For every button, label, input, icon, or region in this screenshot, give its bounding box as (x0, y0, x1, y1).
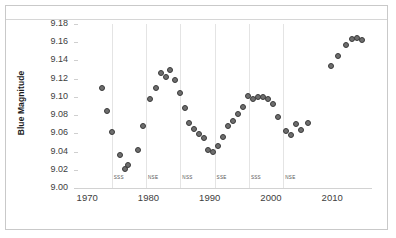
data-point (359, 37, 365, 43)
y-axis-title: Blue Magnitude (16, 33, 26, 173)
y-axis-tick-label: 9.04 (28, 147, 68, 156)
phase-annotation-label: SSS (251, 175, 261, 180)
data-point (240, 104, 246, 110)
phase-annotation-label: SSS (114, 175, 124, 180)
data-point (186, 120, 192, 126)
gridline-vertical (180, 24, 181, 188)
data-point (270, 101, 276, 107)
y-axis-tick-label: 9.02 (28, 165, 68, 174)
data-point (117, 152, 123, 158)
x-axis-tick-label: 2000 (248, 192, 294, 203)
phase-annotation-label: NSS (182, 175, 192, 180)
y-axis-tick-label: 9.08 (28, 110, 68, 119)
data-point (167, 67, 173, 73)
gridline-vertical (215, 24, 216, 188)
x-axis-tick-label: 1980 (125, 192, 171, 203)
phase-annotation-label: NSE (285, 175, 295, 180)
data-point (125, 162, 131, 168)
data-point (225, 123, 231, 129)
x-axis-tick-label: 1990 (187, 192, 233, 203)
data-point (163, 74, 169, 80)
data-point (177, 90, 183, 96)
data-point (147, 96, 153, 102)
data-point (343, 42, 349, 48)
data-point (335, 53, 341, 59)
chart-canvas: Blue Magnitude 9.189.169.149.129.109.089… (6, 6, 387, 229)
y-axis-tick-label: 9.06 (28, 128, 68, 137)
plot-area (78, 24, 372, 188)
y-axis-tick-label: 9.12 (28, 74, 68, 83)
phase-annotation-label: SSE (217, 175, 227, 180)
data-point (172, 77, 178, 83)
data-point (275, 114, 281, 120)
data-point (182, 105, 188, 111)
data-point (99, 85, 105, 91)
y-axis-tick-label: 9.14 (28, 55, 68, 64)
x-axis-line (78, 188, 372, 189)
data-point (191, 126, 197, 132)
gridline-vertical (249, 24, 250, 188)
data-point (298, 127, 304, 133)
data-point (305, 120, 311, 126)
gridline-vertical (112, 24, 113, 188)
phase-annotation-label: NSE (148, 175, 158, 180)
data-point (135, 147, 141, 153)
data-point (153, 85, 159, 91)
y-axis-tick-label: 9.16 (28, 37, 68, 46)
data-point (230, 118, 236, 124)
y-axis-tick-label: 9.10 (28, 92, 68, 101)
data-point (109, 129, 115, 135)
y-axis-tick-label: 9.18 (28, 19, 68, 28)
x-axis-tick-label: 1970 (64, 192, 110, 203)
y-axis-tick-label: 9.00 (28, 183, 68, 192)
chart-frame: Blue Magnitude 9.189.169.149.129.109.089… (5, 5, 388, 230)
x-axis-tick-label: 2010 (309, 192, 355, 203)
data-point (220, 134, 226, 140)
data-point (293, 121, 299, 127)
data-point (215, 143, 221, 149)
data-point (201, 135, 207, 141)
gridline-vertical (146, 24, 147, 188)
data-point (140, 123, 146, 129)
gridline-vertical (283, 24, 284, 188)
data-point (328, 63, 334, 69)
data-point (104, 108, 110, 114)
data-point (288, 132, 294, 138)
data-point (235, 111, 241, 117)
